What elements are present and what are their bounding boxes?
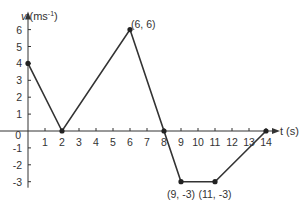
- data-point: [25, 61, 30, 66]
- x-tick-label: 12: [226, 136, 238, 148]
- y-tick-label: 5: [16, 41, 22, 53]
- x-tick-label: 9: [178, 136, 184, 148]
- data-point: [178, 179, 183, 184]
- point-annotation: (6, 6): [131, 18, 156, 30]
- y-tick-label: 1: [16, 108, 22, 120]
- x-tick-label: 13: [243, 136, 255, 148]
- x-tick-label: 7: [144, 136, 150, 148]
- x-tick-label: 2: [59, 136, 65, 148]
- x-tick-label: 6: [127, 136, 133, 148]
- y-tick-label: -3: [13, 176, 22, 188]
- y-tick-label: -2: [13, 159, 22, 171]
- y-tick-label: 3: [16, 74, 22, 86]
- y-tick-label: 6: [16, 24, 22, 36]
- y-tick-label: -1: [13, 142, 22, 154]
- data-point: [263, 128, 268, 133]
- point-annotation: (9, -3): [167, 188, 195, 200]
- data-series: [25, 27, 268, 184]
- x-tick-label: 10: [192, 136, 204, 148]
- annotations: (6, 6)(9, -3)(11, -3): [131, 18, 232, 200]
- data-point: [212, 179, 217, 184]
- x-tick-label: 3: [76, 136, 82, 148]
- x-tick-label: 5: [110, 136, 116, 148]
- x-tick-label: 14: [260, 136, 272, 148]
- data-point: [59, 128, 64, 133]
- x-tick-label: 1: [42, 136, 48, 148]
- y-tick-label: 0: [15, 129, 21, 141]
- point-annotation: (11, -3): [198, 188, 231, 200]
- x-axis-label: t (s): [280, 125, 299, 137]
- velocity-time-graph: 1234567891011121314-3-2-10123456 (6, 6)(…: [0, 0, 303, 208]
- axes: [0, 12, 280, 188]
- x-tick-label: 11: [210, 136, 221, 148]
- data-point: [161, 128, 166, 133]
- velocity-line: [28, 30, 266, 182]
- x-tick-label: 4: [93, 136, 99, 148]
- y-tick-label: 2: [16, 91, 22, 103]
- y-tick-label: 4: [16, 57, 22, 69]
